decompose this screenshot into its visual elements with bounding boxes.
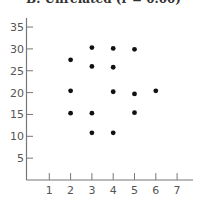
x-tick-label: 2 [67, 184, 74, 197]
data-point [68, 88, 73, 93]
y-tick-label: 30 [10, 43, 24, 56]
y-tick-label: 35 [10, 21, 24, 34]
data-point [111, 65, 116, 70]
y-tick-label: 10 [10, 130, 24, 143]
data-point [90, 111, 95, 116]
x-tick-label: 5 [131, 184, 138, 197]
data-point [132, 92, 137, 97]
data-point [132, 110, 137, 115]
x-tick-label: 1 [46, 184, 53, 197]
data-point [90, 45, 95, 50]
y-tick-label: 15 [10, 108, 24, 121]
data-point [111, 89, 116, 94]
x-tick-label: 3 [88, 184, 95, 197]
data-point [111, 130, 116, 135]
data-point [132, 47, 137, 52]
data-points [68, 45, 158, 135]
x-tick-label: 7 [174, 184, 181, 197]
axes: 51015202530351234567 [10, 18, 193, 197]
y-tick-label: 20 [10, 87, 24, 100]
y-tick-label: 25 [10, 65, 24, 78]
data-point [111, 46, 116, 51]
data-point [68, 57, 73, 62]
data-point [68, 111, 73, 116]
y-tick-label: 5 [17, 152, 24, 165]
x-tick-label: 4 [110, 184, 117, 197]
data-point [90, 64, 95, 69]
data-point [90, 130, 95, 135]
scatter-plot: 51015202530351234567 [0, 0, 200, 203]
data-point [153, 88, 158, 93]
x-tick-label: 6 [152, 184, 159, 197]
